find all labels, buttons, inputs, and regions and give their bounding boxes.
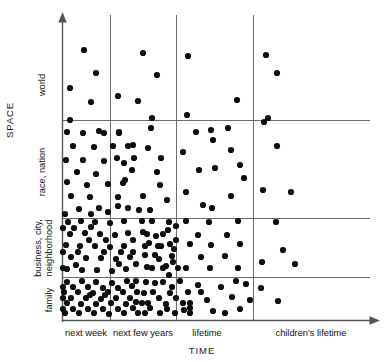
scatter-dot bbox=[130, 249, 136, 255]
scatter-dot bbox=[115, 93, 121, 99]
scatter-dot bbox=[206, 219, 212, 225]
scatter-dot bbox=[150, 289, 156, 295]
scatter-dot bbox=[124, 278, 130, 284]
scatter-dot bbox=[73, 262, 79, 268]
scatter-dot bbox=[70, 143, 76, 149]
scatter-dot bbox=[210, 308, 216, 314]
scatter-dot bbox=[275, 298, 281, 304]
scatter-dot bbox=[105, 209, 111, 215]
scatter-dot bbox=[156, 256, 162, 262]
scatter-dot bbox=[274, 70, 280, 76]
scatter-dot bbox=[98, 255, 104, 261]
scatter-dot bbox=[121, 243, 127, 249]
scatter-dot bbox=[237, 162, 243, 168]
x-axis-title: TIME bbox=[189, 345, 215, 356]
scatter-dot bbox=[181, 307, 187, 313]
scatter-dot bbox=[204, 297, 210, 303]
scatter-dot bbox=[80, 157, 86, 163]
scatter-dot bbox=[93, 70, 99, 76]
figure-container: world race, nation business, city, neigh… bbox=[0, 0, 390, 362]
scatter-dot bbox=[112, 232, 118, 238]
scatter-dot bbox=[67, 231, 73, 237]
scatter-dot bbox=[109, 280, 115, 286]
scatter-dot bbox=[261, 119, 267, 125]
scatter-dot bbox=[93, 171, 99, 177]
scatter-dot bbox=[173, 295, 179, 301]
scatter-dot bbox=[218, 284, 224, 290]
scatter-dot bbox=[198, 289, 204, 295]
scatter-dot bbox=[60, 225, 66, 231]
scatter-dot bbox=[78, 218, 84, 224]
scatter-dot bbox=[75, 289, 81, 295]
scatter-dot bbox=[171, 246, 177, 252]
scatter-dot bbox=[96, 205, 102, 211]
scatter-dot bbox=[180, 300, 186, 306]
scatter-dot bbox=[105, 181, 111, 187]
scatter-dot bbox=[166, 272, 172, 278]
scatter-dot bbox=[153, 233, 159, 239]
scatter-dot bbox=[157, 182, 163, 188]
scatter-dot bbox=[152, 280, 158, 286]
scatter-dot bbox=[60, 265, 66, 271]
scatter-dot bbox=[88, 211, 94, 217]
scatter-dot bbox=[273, 219, 279, 225]
scatter-dot bbox=[62, 211, 68, 217]
scatter-dot bbox=[67, 117, 73, 123]
scatter-dot bbox=[172, 310, 178, 316]
scatter-dot bbox=[259, 259, 265, 265]
scatter-dot bbox=[121, 218, 127, 224]
scatter-dot bbox=[107, 220, 113, 226]
scatter-dot bbox=[225, 125, 231, 131]
scatter-dot bbox=[130, 237, 136, 243]
scatter-dot bbox=[91, 144, 97, 150]
scatter-dot bbox=[110, 143, 116, 149]
scatter-dot bbox=[68, 193, 74, 199]
scatter-dot bbox=[118, 249, 124, 255]
scatter-dot bbox=[79, 267, 85, 273]
scatter-dot bbox=[60, 284, 66, 290]
scatter-dot bbox=[101, 130, 107, 136]
scatter-dot bbox=[222, 310, 228, 316]
scatter-dot bbox=[74, 169, 80, 175]
scatter-dot bbox=[121, 160, 127, 166]
scatter-dot bbox=[106, 311, 112, 317]
scatter-dot bbox=[130, 305, 136, 311]
scatter-dot bbox=[123, 266, 129, 272]
scatter-dot bbox=[207, 265, 213, 271]
scatter-dot bbox=[158, 243, 164, 249]
scatter-dot bbox=[149, 218, 155, 224]
x-tick-label-next-week: next week bbox=[65, 328, 107, 338]
scatter-dot bbox=[280, 247, 286, 253]
scatter-dot bbox=[160, 231, 166, 237]
scatter-dot bbox=[129, 167, 135, 173]
scatter-dot bbox=[154, 169, 160, 175]
scatter-dot bbox=[187, 241, 193, 247]
scatter-dot bbox=[125, 143, 131, 149]
scatter-dot bbox=[166, 219, 172, 225]
x-axis bbox=[62, 316, 380, 324]
scatter-dot bbox=[70, 306, 76, 312]
scatter-dot bbox=[115, 203, 121, 209]
scatter-dot bbox=[67, 85, 73, 91]
scatter-dot bbox=[125, 205, 131, 211]
scatter-dot bbox=[180, 149, 186, 155]
scatter-dot bbox=[292, 261, 298, 267]
scatter-dot bbox=[87, 292, 93, 298]
scatter-dot bbox=[81, 47, 87, 53]
scatter-dot bbox=[114, 155, 120, 161]
scatter-dot bbox=[60, 306, 66, 312]
scatter-dot bbox=[156, 295, 162, 301]
scatter-dot bbox=[142, 243, 148, 249]
scatter-dot bbox=[260, 187, 266, 193]
scatter-dot bbox=[103, 237, 109, 243]
x-tick-label-next-few-years: next few years bbox=[113, 328, 173, 338]
scatter-dot bbox=[184, 112, 190, 118]
scatter-dot bbox=[144, 231, 150, 237]
scatter-dot bbox=[133, 299, 139, 305]
scatter-dot bbox=[92, 243, 98, 249]
scatter-dot bbox=[147, 305, 153, 311]
scatter-dot bbox=[147, 207, 153, 213]
scatter-dot bbox=[195, 282, 201, 288]
scatter-dot bbox=[149, 265, 155, 271]
scatter-dot bbox=[115, 306, 121, 312]
